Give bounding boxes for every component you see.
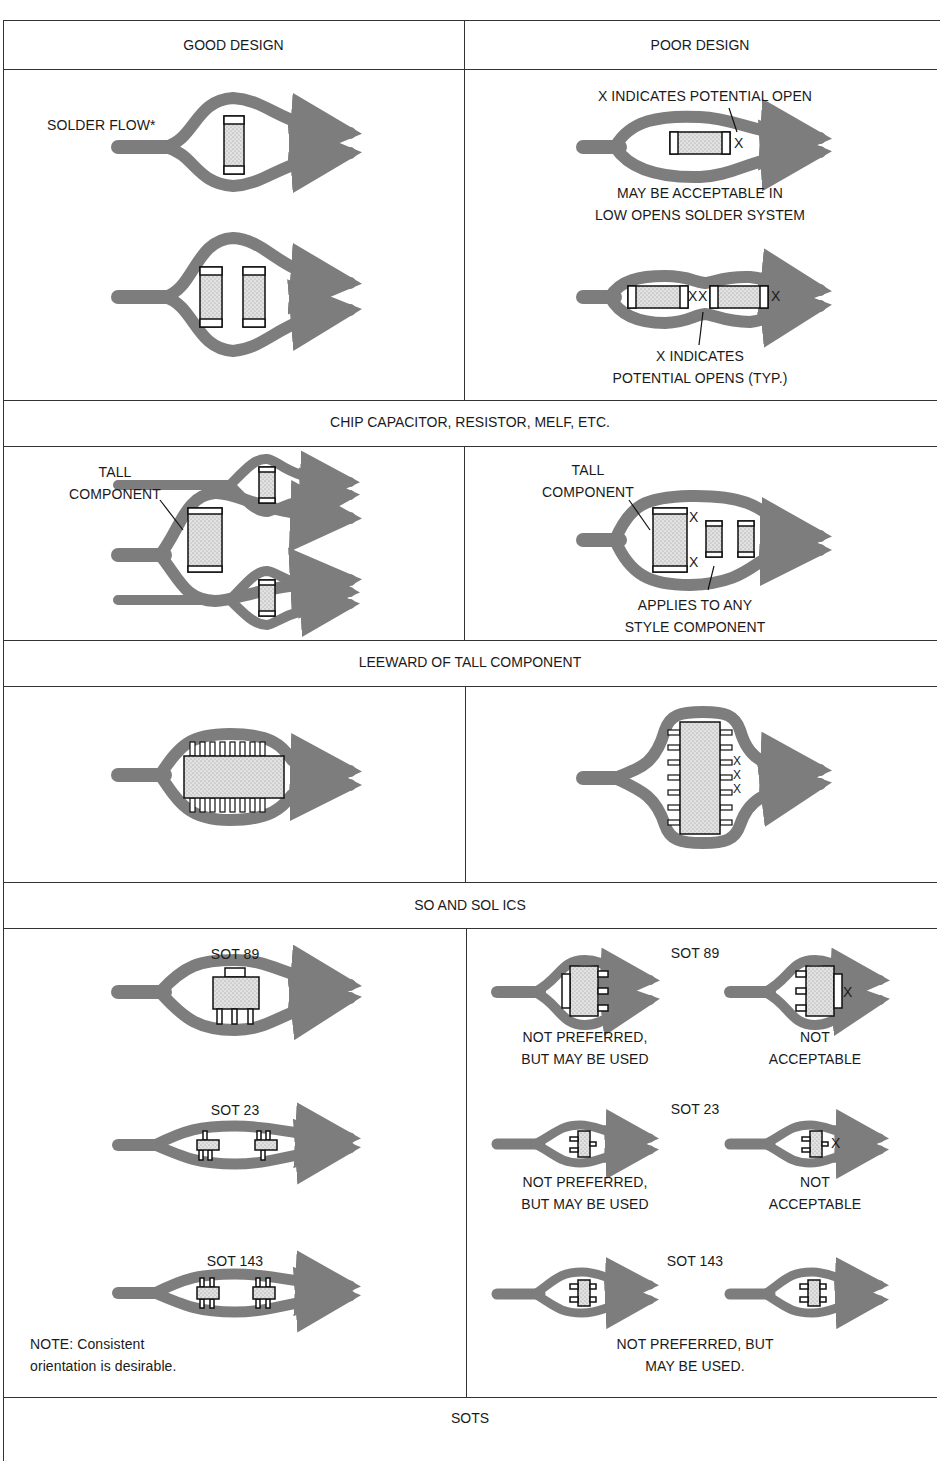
label-may-be-acceptable: MAY BE ACCEPTABLE IN [550, 184, 850, 203]
label-sot-143: SOT 143 [645, 1252, 745, 1271]
label-potential-opens-typ: POTENTIAL OPENS (TYP.) [550, 369, 850, 388]
label-x-indicates: X INDICATES [550, 347, 850, 366]
label-component: COMPONENT [60, 485, 170, 504]
label-tall: TALL [533, 461, 643, 480]
label-low-opens: LOW OPENS SOLDER SYSTEM [550, 206, 850, 225]
label-tall: TALL [60, 463, 170, 482]
label-but-may-be-used: BUT MAY BE USED [495, 1195, 675, 1214]
label-component: COMPONENT [533, 483, 643, 502]
x-mark: X [771, 287, 780, 306]
note-consistent: NOTE: Consistent [30, 1335, 144, 1354]
note-orientation: orientation is desirable. [30, 1357, 176, 1376]
label-solder-flow: SOLDER FLOW* [47, 116, 156, 135]
label-not: NOT [745, 1173, 885, 1192]
x-mark: X [733, 780, 741, 799]
label-acceptable: ACCEPTABLE [745, 1195, 885, 1214]
label-sot-143: SOT 143 [185, 1252, 285, 1271]
label-sot-89: SOT 89 [185, 945, 285, 964]
x-mark: X [689, 553, 698, 572]
label-not: NOT [745, 1028, 885, 1047]
label-not-preferred-but: NOT PREFERRED, BUT [560, 1335, 830, 1354]
label-not-preferred: NOT PREFERRED, [495, 1173, 675, 1192]
label-applies-to-any: APPLIES TO ANY [600, 596, 790, 615]
label-sot-23: SOT 23 [185, 1101, 285, 1120]
label-but-may-be-used: BUT MAY BE USED [495, 1050, 675, 1069]
label-style-component: STYLE COMPONENT [600, 618, 790, 637]
x-mark: X [698, 287, 707, 306]
label-sot-89: SOT 89 [645, 944, 745, 963]
x-mark: X [689, 508, 698, 527]
x-mark: X [688, 287, 697, 306]
label-acceptable: ACCEPTABLE [745, 1050, 885, 1069]
label-sot-23: SOT 23 [645, 1100, 745, 1119]
x-mark: X [831, 1134, 840, 1153]
label-may-be-used: MAY BE USED. [560, 1357, 830, 1376]
label-not-preferred: NOT PREFERRED, [495, 1028, 675, 1047]
label-potential-open: X INDICATES POTENTIAL OPEN [545, 87, 865, 106]
x-mark: X [734, 134, 743, 153]
x-mark: X [843, 983, 852, 1002]
